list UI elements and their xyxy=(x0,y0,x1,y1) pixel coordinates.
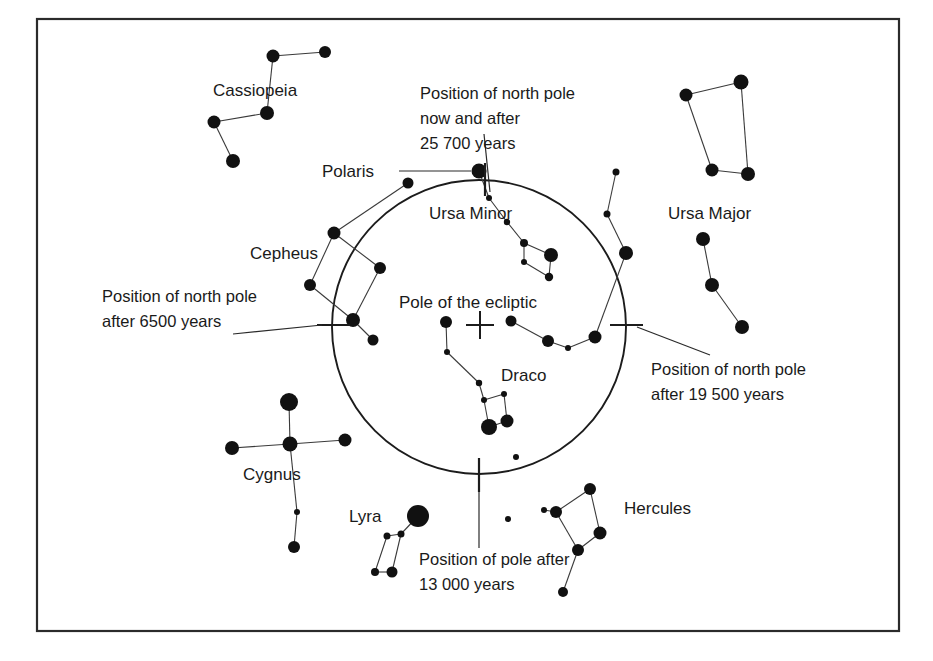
callout-after-19500: Position of north pole after 19 500 year… xyxy=(651,360,806,403)
callout-6500-line2: after 6500 years xyxy=(102,312,221,330)
after-6500-leader xyxy=(233,325,322,334)
callout-13000-line1: Position of pole after xyxy=(419,550,570,568)
label-lyra: Lyra xyxy=(349,507,382,526)
callout-now-line1: Position of north pole xyxy=(420,84,575,102)
label-polaris: Polaris xyxy=(322,162,374,181)
label-cygnus: Cygnus xyxy=(243,465,301,484)
callout-13000-line2: 13 000 years xyxy=(419,575,514,593)
after-19500-leader xyxy=(637,327,710,355)
callout-after-6500: Position of north pole after 6500 years xyxy=(102,287,257,330)
callout-after-13000: Position of pole after 13 000 years xyxy=(419,550,570,593)
label-cepheus: Cepheus xyxy=(250,244,318,263)
callout-now-25700: Position of north pole now and after 25 … xyxy=(420,84,575,152)
cassiopeia-stars xyxy=(208,46,332,168)
callout-19500-line1: Position of north pole xyxy=(651,360,806,378)
callout-now-line2: now and after xyxy=(420,109,520,127)
leader-lines xyxy=(233,134,710,548)
label-ursa-minor: Ursa Minor xyxy=(429,204,512,223)
field-stars xyxy=(505,516,511,522)
label-ursa-major: Ursa Major xyxy=(668,204,751,223)
label-cassiopeia: Cassiopeia xyxy=(213,81,298,100)
callout-now-line3: 25 700 years xyxy=(420,134,515,152)
hercules-lines xyxy=(544,489,600,592)
ecliptic-pole-cross xyxy=(466,311,494,339)
star-chart-figure: Cassiopeia Polaris Ursa Minor Ursa Major… xyxy=(0,0,933,661)
callout-6500-line1: Position of north pole xyxy=(102,287,257,305)
label-hercules: Hercules xyxy=(624,499,691,518)
label-draco: Draco xyxy=(501,366,546,385)
callout-19500-line2: after 19 500 years xyxy=(651,385,784,403)
star-map-svg: Cassiopeia Polaris Ursa Minor Ursa Major… xyxy=(0,0,933,661)
label-pole-of-ecliptic: Pole of the ecliptic xyxy=(399,293,537,312)
